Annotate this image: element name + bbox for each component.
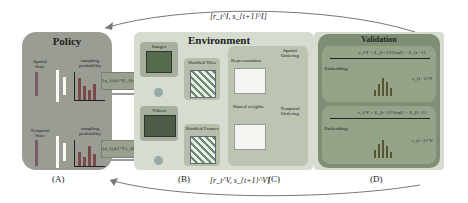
video-frames (144, 115, 176, 137)
caption-d: (D) (370, 174, 383, 184)
bottom-feedback-label: [r_t^V, s_{t+1}^V] (210, 176, 270, 185)
embedding-label-top: Embedding (324, 66, 348, 71)
reward-equation-bottom: r_t^V = L_{t+1}^{val} − L_{t+1} (352, 110, 432, 115)
policy-layer (63, 77, 66, 95)
spatial-network (234, 68, 266, 94)
validation-panel: Validation r_t^I = L_{t+1}^{val} − L_{t+… (314, 32, 444, 170)
shuffled-tiles-label: Shuffled Tiles (184, 60, 220, 65)
policy-layer (63, 143, 66, 161)
spatial-state-label: Spatial State (28, 59, 52, 69)
state-bottom: s_{t+1}^V (410, 138, 434, 143)
caption-b: (B) (178, 174, 190, 184)
videos-box: Videos (140, 106, 178, 141)
temporal-state-vector (35, 140, 38, 166)
sampling-probability-bottom: sampling probability (70, 126, 110, 136)
embedding-label-bottom: Embedding (324, 126, 348, 131)
diagram: [r_t^I, s_{t+1}^I] [r_t^V, s_{t+1}^V] Po… (0, 0, 468, 203)
temporal-state-label: Temporal State (28, 128, 52, 138)
videos-label: Videos (140, 108, 178, 113)
ordering-network-box: Representation Spatial Ordering Shared w… (228, 46, 308, 166)
sampling-probability-top: sampling probability (70, 58, 110, 68)
shuffled-frames-box: Shuffled Frames (184, 124, 220, 166)
images-box: Images (140, 42, 178, 77)
sampler-node (154, 88, 163, 97)
representation-label: Representation (230, 58, 262, 63)
images-label: Images (140, 44, 178, 49)
validation-inner: Validation r_t^I = L_{t+1}^{val} − L_{t+… (318, 34, 440, 168)
shuffled-frames-label: Shuffled Frames (184, 126, 220, 131)
shuffled-tiles-box: Shuffled Tiles (184, 58, 220, 100)
top-feedback-label: [r_t^I, s_{t+1}^I] (210, 12, 267, 21)
policy-panel: Policy Spatial State sampling probabilit… (22, 32, 112, 170)
histogram-top (372, 76, 398, 96)
sampler-node (154, 156, 163, 165)
reward-equation-top: r_t^I = L_{t+1}^{val} − L_{t+1} (352, 50, 432, 55)
validation-video-branch: r_t^V = L_{t+1}^{val} − L_{t+1} Embeddin… (322, 106, 436, 164)
validation-title: Validation (318, 35, 440, 44)
temporal-ordering-label: Temporal Ordering (276, 106, 304, 116)
spatial-state-vector (35, 72, 38, 96)
policy-layer (56, 136, 59, 168)
validation-image-branch: r_t^I = L_{t+1}^{val} − L_{t+1} Embeddin… (322, 46, 436, 102)
image-stack (146, 51, 172, 73)
state-top: s_{t+1}^I (410, 76, 434, 81)
action-top-box: {a_{t,k}^I}_{k=1}^K (101, 72, 135, 90)
environment-panel: Environment Images Shuffled Tiles Videos… (134, 32, 314, 170)
environment-title: Environment (174, 34, 264, 46)
policy-title: Policy (22, 35, 112, 47)
policy-layer (56, 70, 59, 102)
frames-cube (190, 136, 216, 164)
caption-c: (C) (268, 174, 280, 184)
tiles-cube (190, 70, 216, 98)
shared-weights-label: Shared weights (230, 104, 266, 109)
temporal-network (234, 124, 266, 150)
action-bottom-box: {a_{t,k}^V}_{k=1}^K (101, 140, 135, 158)
histogram-bottom (372, 138, 398, 158)
spatial-ordering-label: Spatial Ordering (276, 48, 304, 58)
caption-a: (A) (52, 174, 65, 184)
